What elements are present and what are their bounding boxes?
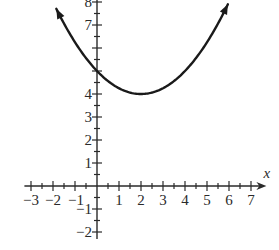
parabola-curve — [56, 4, 228, 94]
y-tick-label: −2 — [76, 224, 92, 240]
x-tick-label: 2 — [137, 192, 145, 208]
y-tick-label: 8 — [85, 0, 93, 10]
x-tick-label: 4 — [181, 192, 189, 208]
x-axis-title: x — [262, 165, 270, 181]
curve-arrow-right — [220, 4, 228, 15]
y-tick-label: −1 — [76, 201, 92, 217]
y-tick-label: 2 — [85, 132, 93, 148]
curve-arrow-left — [56, 9, 64, 20]
parabola-chart: −3−2−11234567−2−1123478 x — [0, 0, 279, 250]
x-tick-label: 7 — [247, 192, 255, 208]
curve-group — [56, 4, 228, 94]
x-tick-label: 5 — [203, 192, 211, 208]
y-tick-label: 7 — [85, 17, 93, 33]
tick-labels: −3−2−11234567−2−1123478 — [23, 0, 255, 240]
y-tick-label: 3 — [85, 109, 93, 125]
x-tick-label: 6 — [225, 192, 233, 208]
y-tick-label: 4 — [85, 86, 93, 102]
x-tick-label: 1 — [115, 192, 123, 208]
y-tick-label: 1 — [85, 155, 93, 171]
x-tick-label: −3 — [23, 192, 39, 208]
x-tick-label: −2 — [45, 192, 61, 208]
x-tick-label: 3 — [159, 192, 167, 208]
